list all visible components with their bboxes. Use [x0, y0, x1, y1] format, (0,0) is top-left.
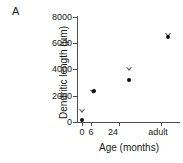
- x-tick-label: 0: [79, 127, 84, 137]
- y-tick-mark: [73, 122, 77, 123]
- y-tick-mark: [73, 17, 77, 18]
- data-point-circle: [80, 118, 84, 122]
- x-tick-mark: [91, 123, 92, 126]
- x-tick-mark: [119, 123, 120, 126]
- data-point-circle: [92, 89, 96, 93]
- y-tick-label: 2000: [32, 92, 72, 101]
- figure-panel-a: A Dendritic length (µm) 8000 6000 4000 2…: [0, 0, 183, 163]
- y-tick-label-group: 8000 6000 4000 2000 0: [28, 0, 72, 163]
- y-tick-mark: [73, 69, 77, 70]
- data-point-triangle: [126, 68, 132, 72]
- y-tick-label: 0: [32, 118, 72, 127]
- x-tick-label: adult: [148, 127, 168, 137]
- data-point-circle: [127, 78, 131, 82]
- x-axis-spine: [77, 122, 180, 123]
- plot-area: [78, 17, 180, 122]
- x-axis-title: Age (months): [78, 142, 180, 153]
- y-tick-mark: [73, 43, 77, 44]
- y-tick-label: 8000: [32, 13, 72, 22]
- x-tick-mark: [161, 123, 162, 126]
- panel-label: A: [12, 5, 20, 17]
- data-point-circle: [166, 35, 170, 39]
- y-tick-label: 4000: [32, 65, 72, 74]
- x-tick-label: 24: [108, 127, 118, 137]
- x-tick-mark: [82, 123, 83, 126]
- y-tick-label: 6000: [32, 39, 72, 48]
- x-tick-label: 6: [88, 127, 93, 137]
- data-point-triangle: [79, 110, 85, 114]
- y-tick-mark: [73, 96, 77, 97]
